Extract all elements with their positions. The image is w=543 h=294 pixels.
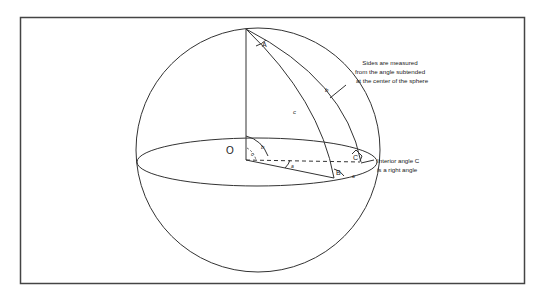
annotation-sides-line3: at the center of the sphere (356, 77, 429, 84)
label-angle-B: B (336, 169, 341, 176)
radius-to-B (246, 160, 334, 178)
label-angle-A: A (262, 41, 267, 48)
label-side-c: c (293, 109, 296, 115)
right-angle-leader (361, 160, 374, 163)
label-center-O: O (226, 145, 234, 156)
label-angle-C: C (353, 154, 358, 161)
center-angle-b-arc (246, 136, 268, 156)
label-center-a: a (291, 163, 294, 169)
spherical-triangle-diagram: O A B C c b a b c a Sides are measured f… (0, 0, 543, 294)
annotation-right-angle-line2: is a right angle (377, 166, 418, 173)
label-side-a: a (352, 173, 355, 179)
radius-to-C (246, 160, 360, 162)
annotation-right-angle-line1: Interior angle C (377, 157, 420, 164)
side-b-leader (330, 85, 346, 98)
center-angle-a-arc (285, 160, 290, 168)
annotation-sides-line2: from the angle subtended (355, 68, 426, 75)
annotation-sides-line1: Sides are measured (362, 59, 418, 66)
side-b-arc (246, 29, 361, 162)
sphere-outline (136, 28, 380, 272)
side-c-arc (246, 29, 334, 178)
